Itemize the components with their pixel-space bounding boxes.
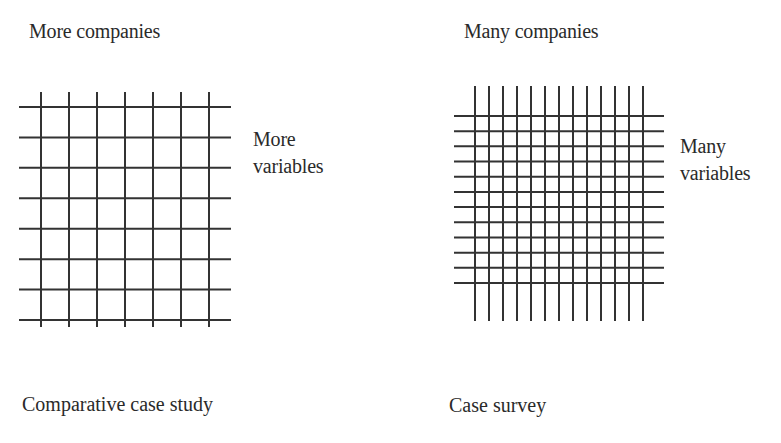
right-side-label-line2: variables xyxy=(680,160,750,186)
right-caption: Case survey xyxy=(449,393,546,417)
right-grid xyxy=(0,0,781,443)
right-side-label-line1: Many xyxy=(680,133,726,159)
